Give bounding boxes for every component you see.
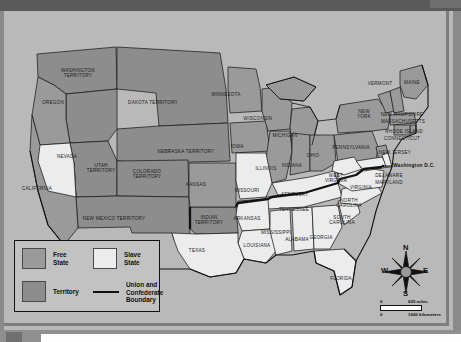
region-label-line: ALABAMA — [285, 237, 308, 242]
region-label-ohio: OHIO — [307, 153, 320, 158]
region-label-line: DAKOTA TERRITORY — [128, 100, 178, 105]
scale-bar-graphic — [380, 305, 422, 311]
region-label-west-virginia: WESTVIRGINIA — [325, 173, 347, 183]
region-label-line: MARYLAND — [375, 180, 402, 185]
region-label-line: MINNESOTA — [211, 92, 240, 97]
region-label-north-carolina: NORTHCAROLINA — [336, 198, 362, 208]
region-label-california: CALIFORNIA — [22, 186, 52, 191]
region-label-delaware: DELAWARE — [375, 173, 402, 178]
legend-item-territory: Territory — [22, 281, 79, 302]
region-label-massachusetts: MASSACHUSETTS — [381, 119, 425, 124]
region-label-minnesota: MINNESOTA — [211, 92, 240, 97]
region-label-line: LOUISIANA — [244, 243, 271, 248]
region-label-indian-territory: INDIANTERRITORY — [195, 215, 224, 225]
scale-km-zero: 0 — [380, 312, 382, 317]
region-label-line: MICHIGAN — [273, 133, 298, 138]
scale-miles-value: 625 miles — [408, 299, 428, 304]
region-label-line: VERMONT — [368, 81, 393, 86]
region-label-line: YORK — [357, 114, 371, 119]
region-label-texas: TEXAS — [189, 248, 205, 253]
region-label-line: NEBRASKA TERRITORY — [158, 149, 215, 154]
region-label-line: TENNESSEE — [279, 207, 309, 212]
region-label-kansas: KANSAS — [186, 182, 206, 187]
compass-label-north: N — [403, 243, 408, 252]
region-label-iowa: IOWA — [230, 144, 243, 149]
region-label-maryland: MARYLAND — [375, 180, 402, 185]
legend-label-boundary: Union and Confederate Boundary — [126, 281, 163, 304]
legend-swatch-territory — [22, 281, 46, 302]
region-label-line: GEORGIA — [309, 235, 332, 240]
legend-swatch-free-state — [22, 248, 46, 269]
region-label-wisconsin: WISCONSIN — [244, 116, 273, 121]
region-label-nevada: NEVADA — [57, 154, 77, 159]
taskbar-nub[interactable] — [6, 332, 22, 342]
region-label-line: CAROLINA — [329, 220, 355, 225]
window-chrome-bar — [0, 0, 461, 11]
region-label-line: NEW MEXICO TERRITORY — [83, 216, 146, 221]
region-label-line: TERRITORY — [133, 174, 162, 179]
region-label-washington-territory: WASHINGTONTERRITORY — [61, 68, 95, 78]
region-label-colorado-territory: COLORADOTERRITORY — [133, 169, 162, 179]
region-label-vermont: VERMONT — [368, 81, 393, 86]
region-label-indiana: INDIANA — [282, 163, 302, 168]
region-label-florida: FLORIDA — [330, 276, 352, 281]
scale-miles-zero: 0 — [380, 299, 382, 304]
region-label-new-jersey: NEW JERSEY — [379, 150, 411, 155]
region-label-line: NEW JERSEY — [379, 150, 411, 155]
region-label-new-mexico-territory: NEW MEXICO TERRITORY — [83, 216, 146, 221]
region-label-line: TERRITORY — [87, 168, 116, 173]
region-label-line: CONNECTICUT — [384, 136, 420, 141]
region-label-line: IOWA — [230, 144, 243, 149]
compass-label-south: S — [403, 289, 408, 298]
region-label-line: PENNSYLVANIA — [332, 145, 370, 150]
region-label-missouri: MISSOURI — [235, 188, 260, 193]
region-label-maine: MAINE — [404, 80, 420, 85]
region-label-tennessee: TENNESSEE — [279, 207, 309, 212]
lower-pane — [41, 334, 461, 342]
region-label-line: MAINE — [404, 80, 420, 85]
region-label-line: OHIO — [307, 153, 320, 158]
region-label-line: MISSOURI — [235, 188, 260, 193]
region-label-connecticut: CONNECTICUT — [384, 136, 420, 141]
region-label-line: ARKANSAS — [233, 216, 260, 221]
legend-label-slave-state: Slave State — [124, 251, 141, 266]
region-label-utah-territory: UTAHTERRITORY — [87, 163, 116, 173]
legend-swatch-boundary-line — [93, 291, 119, 293]
region-label-louisiana: LOUISIANA — [244, 243, 271, 248]
region-label-south-carolina: SOUTHCAROLINA — [329, 215, 355, 225]
scale-km-value: 1000 kilometers — [408, 312, 441, 317]
legend-swatch-slave-state — [93, 248, 117, 269]
legend-item-slave-state: Slave State — [93, 248, 141, 269]
map-legend: Free State Slave State Territory — [14, 240, 160, 312]
region-label-line: MASSACHUSETTS — [381, 119, 425, 124]
window-chrome-bar-right — [430, 0, 461, 8]
region-label-line: TERRITORY — [195, 220, 224, 225]
region-label-line: VIRGINIA — [350, 185, 372, 190]
region-label-line: OREGON — [42, 100, 64, 105]
map-plate: WASHINGTONTERRITORYOREGONDAKOTA TERRITOR… — [4, 11, 453, 330]
region-label-line: DELAWARE — [375, 173, 402, 178]
region-label-line: MISSISSIPPI — [261, 230, 291, 235]
region-label-nebraska-territory: NEBRASKA TERRITORY — [158, 149, 215, 154]
region-label-rhode-island: RHODE ISLAND — [385, 129, 422, 134]
compass-label-west: W — [381, 266, 388, 275]
scale-bar: 0 625 miles 0 1000 kilometers — [380, 299, 452, 321]
region-label-dakota-territory: DAKOTA TERRITORY — [128, 100, 178, 105]
compass-label-east: E — [423, 266, 428, 275]
region-label-line: INDIANA — [282, 163, 302, 168]
region-label-virginia: VIRGINIA — [350, 185, 372, 190]
legend-label-free-state: Free State — [53, 251, 69, 266]
region-label-line: KENTUCKY — [281, 192, 308, 197]
region-label-arkansas: ARKANSAS — [233, 216, 260, 221]
legend-label-territory: Territory — [53, 288, 79, 296]
region-label-kentucky: KENTUCKY — [281, 192, 308, 197]
region-label-line: ILLINOIS — [256, 166, 277, 171]
legend-item-free-state: Free State — [22, 248, 69, 269]
compass-rose: N S E W — [378, 245, 434, 299]
legend-item-boundary: Union and Confederate Boundary — [91, 281, 163, 304]
region-label-line: KANSAS — [186, 182, 206, 187]
document-page: WASHINGTONTERRITORYOREGONDAKOTA TERRITOR… — [4, 11, 453, 330]
window-chrome-bottom — [0, 330, 461, 342]
region-label-line: TEXAS — [189, 248, 205, 253]
region-label-new-york: NEWYORK — [357, 109, 371, 119]
